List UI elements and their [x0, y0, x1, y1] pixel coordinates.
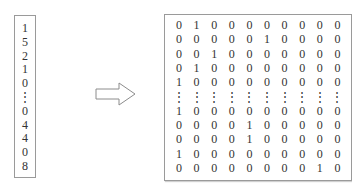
matrix-cell: 0: [171, 118, 187, 132]
matrix-cell: 0: [206, 75, 222, 89]
matrix-cell: 0: [277, 161, 293, 175]
matrix-cell: 0: [259, 161, 275, 175]
matrix-cell: 0: [241, 18, 257, 32]
matrix-cell: 0: [224, 161, 240, 175]
vector-value: 1: [15, 21, 35, 35]
matrix-cell: 0: [241, 47, 257, 61]
matrix-cell: 0: [224, 32, 240, 46]
vector-value: 0: [15, 104, 35, 118]
ellipsis-vertical: ⋮: [294, 90, 310, 104]
matrix-cell: 0: [189, 47, 205, 61]
matrix-cell: 0: [277, 147, 293, 161]
matrix-cell: 0: [294, 32, 310, 46]
matrix-cell: 0: [206, 132, 222, 146]
vector-value: 0: [15, 145, 35, 159]
matrix-cell: 0: [312, 104, 328, 118]
matrix-cell: 0: [189, 132, 205, 146]
matrix-cell: 0: [206, 61, 222, 75]
matrix-cell: 1: [171, 75, 187, 89]
matrix-cell: 0: [329, 47, 345, 61]
matrix-cell: 0: [277, 75, 293, 89]
matrix-cell: 0: [294, 147, 310, 161]
matrix-cell: 1: [171, 104, 187, 118]
matrix-cell: 0: [277, 61, 293, 75]
matrix-cell: 0: [224, 104, 240, 118]
matrix-cell: 0: [259, 75, 275, 89]
matrix-cell: 0: [294, 104, 310, 118]
matrix-cell: 1: [206, 47, 222, 61]
matrix-cell: 0: [294, 61, 310, 75]
matrix-cell: 0: [329, 61, 345, 75]
ellipsis-vertical: ⋮: [312, 90, 328, 104]
matrix-cell: 0: [294, 118, 310, 132]
vector-value: 2: [15, 49, 35, 63]
matrix-cell: 0: [189, 118, 205, 132]
matrix-cell: 0: [259, 132, 275, 146]
one-hot-matrix: 0100000000000001000000100000000100000000…: [164, 14, 352, 181]
matrix-cell: 0: [241, 75, 257, 89]
matrix-cell: 0: [171, 18, 187, 32]
matrix-cell: 0: [294, 47, 310, 61]
matrix-cell: 0: [329, 161, 345, 175]
matrix-cell: 0: [294, 161, 310, 175]
matrix-cell: 1: [189, 18, 205, 32]
matrix-cell: 1: [312, 161, 328, 175]
matrix-cell: 0: [224, 75, 240, 89]
matrix-cell: 0: [171, 47, 187, 61]
matrix-cell: 0: [189, 32, 205, 46]
matrix-cell: 1: [241, 132, 257, 146]
matrix-cell: 0: [206, 32, 222, 46]
matrix-cell: 0: [312, 47, 328, 61]
matrix-cell: 0: [224, 61, 240, 75]
matrix-cell: 0: [312, 18, 328, 32]
matrix-cell: 0: [294, 75, 310, 89]
matrix-cell: 0: [241, 32, 257, 46]
matrix-cell: 0: [294, 132, 310, 146]
matrix-cell: 0: [206, 118, 222, 132]
matrix-cell: 0: [329, 32, 345, 46]
matrix-cell: 0: [312, 132, 328, 146]
ellipsis-vertical: ⋮: [15, 90, 35, 104]
matrix-cell: 1: [241, 118, 257, 132]
matrix-cell: 0: [241, 161, 257, 175]
matrix-cell: 0: [224, 18, 240, 32]
matrix-cell: 0: [171, 32, 187, 46]
vector-value: 8: [15, 159, 35, 173]
matrix-cell: 0: [189, 161, 205, 175]
ellipsis-vertical: ⋮: [329, 90, 345, 104]
matrix-cell: 0: [171, 61, 187, 75]
ellipsis-vertical: ⋮: [224, 90, 240, 104]
matrix-cell: 0: [329, 75, 345, 89]
matrix-cell: 0: [259, 47, 275, 61]
matrix-cell: 1: [171, 147, 187, 161]
matrix-cell: 0: [277, 47, 293, 61]
matrix-cell: 0: [312, 147, 328, 161]
matrix-cell: 1: [259, 32, 275, 46]
vector-value: 5: [15, 35, 35, 49]
matrix-cell: 0: [206, 104, 222, 118]
matrix-cell: 0: [329, 147, 345, 161]
matrix-cell: 0: [329, 118, 345, 132]
matrix-cell: 0: [241, 104, 257, 118]
matrix-cell: 0: [206, 18, 222, 32]
matrix-cell: 0: [206, 161, 222, 175]
matrix-cell: 0: [312, 61, 328, 75]
matrix-cell: 0: [312, 118, 328, 132]
ellipsis-vertical: ⋮: [277, 90, 293, 104]
matrix-cell: 0: [224, 132, 240, 146]
matrix-cell: 0: [312, 75, 328, 89]
input-label-vector: 15210⋮04408: [14, 15, 36, 178]
matrix-cell: 0: [259, 18, 275, 32]
matrix-cell: 0: [312, 32, 328, 46]
matrix-cell: 0: [171, 132, 187, 146]
matrix-cell: 0: [171, 161, 187, 175]
matrix-cell: 0: [277, 132, 293, 146]
matrix-cell: 0: [329, 104, 345, 118]
matrix-cell: 0: [329, 18, 345, 32]
matrix-cell: 0: [224, 147, 240, 161]
ellipsis-vertical: ⋮: [189, 90, 205, 104]
matrix-cell: 0: [189, 104, 205, 118]
matrix-cell: 0: [189, 75, 205, 89]
matrix-cell: 0: [259, 61, 275, 75]
vector-value: 4: [15, 118, 35, 132]
